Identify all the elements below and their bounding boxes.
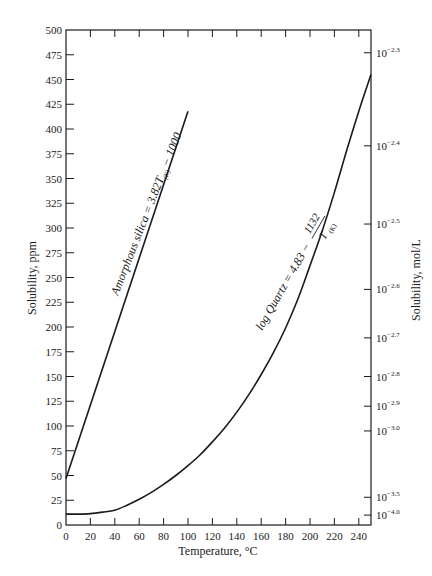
y-tick-label: 300: [46, 222, 63, 234]
x-tick-label: 120: [204, 530, 221, 542]
x-tick-label: 140: [229, 530, 246, 542]
right-tick-label: 10−2.3: [376, 46, 400, 59]
y-tick-label: 375: [46, 148, 63, 160]
y-tick-label: 250: [46, 272, 63, 284]
y-axis-ticks: 0255075100125150175200225250275300325350…: [46, 24, 75, 531]
right-tick-label: 10−3.5: [376, 490, 400, 503]
x-tick-label: 100: [180, 530, 197, 542]
x-tick-label: 60: [134, 530, 146, 542]
y-tick-label: 50: [51, 470, 63, 482]
right-y-axis-label: Solubility, mol/L: [409, 239, 423, 321]
x-axis-ticks: 020406080100120140160180200220240: [63, 30, 367, 542]
x-tick-label: 220: [326, 530, 343, 542]
x-tick-label: 20: [85, 530, 97, 542]
y-tick-label: 450: [46, 74, 63, 86]
x-tick-label: 160: [253, 530, 270, 542]
solubility-chart: 020406080100120140160180200220240 025507…: [0, 0, 432, 576]
x-tick-label: 40: [109, 530, 121, 542]
x-tick-label: 80: [158, 530, 170, 542]
right-tick-label: 10−2.7: [376, 331, 400, 344]
y-axis-label: Solubility, ppm: [25, 240, 39, 315]
right-tick-label: 10−2.5: [376, 217, 400, 230]
y-tick-label: 200: [46, 321, 63, 333]
svg-text:(K): (K): [327, 222, 339, 235]
y-tick-label: 500: [46, 24, 63, 36]
amorphous-silica-annotation: Amorphous silica = 3.82T(K) − 1000: [107, 130, 186, 298]
right-tick-label: 10−4.0: [376, 508, 400, 521]
y-tick-label: 400: [46, 123, 63, 135]
y-tick-label: 475: [46, 49, 63, 61]
plot-frame: [66, 30, 371, 525]
x-tick-label: 0: [63, 530, 69, 542]
y-tick-label: 100: [46, 420, 63, 432]
y-tick-label: 350: [46, 173, 63, 185]
y-tick-label: 0: [57, 519, 63, 531]
right-tick-label: 10−3.0: [376, 424, 400, 437]
y-tick-label: 275: [46, 247, 63, 259]
x-tick-label: 180: [277, 530, 294, 542]
plot-axes: [66, 30, 371, 525]
right-tick-label: 10−2.6: [376, 282, 400, 295]
svg-text:Amorphous silica = 3.82T(K) −: Amorphous silica = 3.82T(K) − 1000: [107, 130, 186, 298]
y-tick-label: 175: [46, 346, 63, 358]
svg-text:log Quartz = 4.83 −: log Quartz = 4.83 −: [252, 241, 313, 333]
right-tick-label: 10−2.4: [376, 139, 400, 152]
x-tick-label: 240: [351, 530, 368, 542]
right-tick-label: 10−2.9: [376, 399, 400, 412]
y-tick-label: 425: [46, 98, 63, 110]
y-tick-label: 125: [46, 395, 63, 407]
quartz-annotation: log Quartz = 4.83 − 1132 T (K): [247, 209, 339, 338]
y-tick-label: 325: [46, 197, 63, 209]
y-tick-label: 150: [46, 371, 63, 383]
x-tick-label: 200: [302, 530, 319, 542]
right-tick-label: 10−2.8: [376, 370, 400, 383]
right-axis-ticks: 10−2.310−2.410−2.510−2.610−2.710−2.810−2…: [364, 46, 400, 521]
y-tick-label: 25: [51, 494, 63, 506]
x-axis-label: Temperature, °C: [178, 544, 257, 558]
y-tick-label: 75: [51, 445, 63, 457]
y-tick-label: 225: [46, 296, 63, 308]
